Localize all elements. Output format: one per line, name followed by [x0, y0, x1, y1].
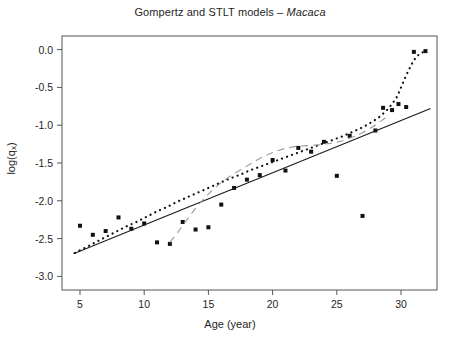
data-point: [423, 49, 427, 53]
data-point: [381, 106, 385, 110]
plot-frame: [62, 36, 437, 290]
y-tick-label: -3.0: [35, 270, 53, 282]
x-tick-label: 10: [138, 298, 150, 310]
x-tick-label: 30: [395, 298, 407, 310]
data-point: [245, 178, 249, 182]
data-point: [412, 50, 416, 54]
data-point: [296, 146, 300, 150]
data-point: [206, 225, 210, 229]
x-tick-label: 25: [331, 298, 343, 310]
data-point: [258, 173, 262, 177]
y-tick-label: -1.5: [35, 157, 53, 169]
stlt-model-dotted-curve: [75, 51, 427, 253]
data-point: [168, 242, 172, 246]
data-point: [91, 233, 95, 237]
x-tick-label: 15: [203, 298, 215, 310]
y-axis-label-close: ): [5, 142, 17, 146]
series-group: [74, 49, 431, 254]
data-point: [396, 102, 400, 106]
data-point: [283, 169, 287, 173]
y-tick-label: -0.5: [35, 81, 53, 93]
data-point: [219, 203, 223, 207]
y-tick-label: -1.0: [35, 119, 53, 131]
y-tick-label: -2.5: [35, 233, 53, 245]
data-point: [309, 150, 313, 154]
y-tick-label: -2.0: [35, 195, 53, 207]
data-point: [361, 214, 365, 218]
x-tick-label: 5: [77, 298, 83, 310]
data-point: [181, 220, 185, 224]
gompertz-model-line: [74, 109, 431, 254]
y-tick-label: 0.0: [38, 44, 53, 56]
data-point: [335, 174, 339, 178]
data-point: [390, 108, 394, 112]
x-tick-label: 20: [267, 298, 279, 310]
data-point: [78, 224, 82, 228]
data-point: [117, 215, 121, 219]
data-point: [104, 229, 108, 233]
y-axis-label-sub: x: [9, 146, 18, 150]
data-point: [404, 105, 408, 109]
y-axis-label: log(qx): [5, 129, 18, 189]
x-axis-label: Age (year): [0, 318, 460, 330]
data-point: [155, 240, 159, 244]
data-point: [194, 228, 198, 232]
y-axis-label-main: log(q: [5, 150, 17, 174]
figure-container: Gompertz and STLT models – Macaca 510152…: [0, 0, 460, 343]
secondary-model-dashed-curve: [170, 118, 386, 243]
plot-canvas: 510152025300.0-0.5-1.0-1.5-2.0-2.5-3.0: [0, 0, 460, 343]
